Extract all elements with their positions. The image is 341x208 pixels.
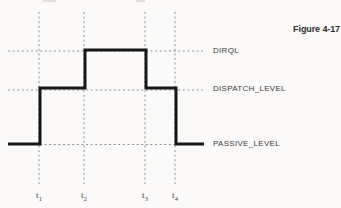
time-label-t2: t2 <box>81 190 87 200</box>
figure-4-17-page: t1t2t3t4DIRQLDISPATCH_LEVELPASSIVE_LEVEL… <box>0 0 341 208</box>
time-label-t3: t3 <box>142 190 148 200</box>
time-label-t1: t1 <box>36 190 42 200</box>
labels-overlay: t1t2t3t4DIRQLDISPATCH_LEVELPASSIVE_LEVEL <box>0 0 341 208</box>
figure-caption: Figure 4-17 <box>293 24 340 34</box>
scan-artifact <box>43 0 56 2</box>
time-label-subscript: 3 <box>145 195 148 202</box>
time-label-subscript: 4 <box>175 195 178 202</box>
time-label-t4: t4 <box>172 190 178 200</box>
time-label-subscript: 1 <box>39 195 42 202</box>
level-label-dispatch_level: DISPATCH_LEVEL <box>213 83 286 95</box>
level-label-dirql: DIRQL <box>213 45 239 57</box>
level-label-passive_level: PASSIVE_LEVEL <box>213 138 280 150</box>
scan-artifact <box>136 0 145 2</box>
time-label-subscript: 2 <box>84 195 87 202</box>
